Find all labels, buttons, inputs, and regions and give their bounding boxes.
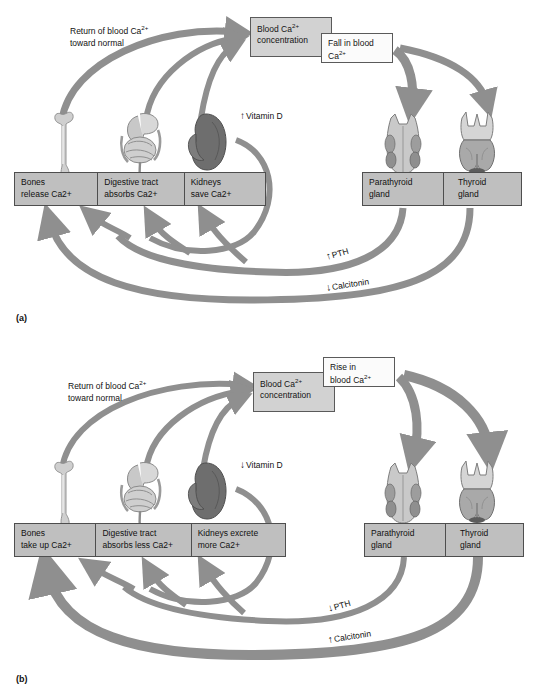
conc-line1-sup: 2+ xyxy=(295,377,302,384)
arrow-pth-to-kidneys xyxy=(206,569,244,613)
vitamin-d-text: Vitamin D xyxy=(246,460,283,470)
digestive-tract-illustration xyxy=(114,110,166,178)
trigger-line2: Ca xyxy=(328,51,339,61)
thyroid-line2: gland xyxy=(460,540,481,550)
digestive-line2: absorbs Ca xyxy=(104,189,147,199)
gland-parathyroid-cell: Parathyroid gland xyxy=(363,173,444,205)
kidney-illustration xyxy=(182,112,230,174)
return-line2: toward normal xyxy=(68,393,122,403)
bones-line1: Bones xyxy=(21,177,45,187)
glands-row: Parathyroid gland Thyroid gland xyxy=(364,523,524,557)
kidney-illustration xyxy=(182,461,230,523)
parathyroid-line2: gland xyxy=(369,189,390,199)
trigger-line1: Fall in blood xyxy=(328,38,374,48)
return-to-normal-label: Return of blood Ca2+ toward normal xyxy=(68,379,146,405)
bone-illustration xyxy=(52,457,78,529)
parathyroid-gland-illustration xyxy=(381,459,425,525)
arrow-fall-to-parathyroid xyxy=(395,50,413,105)
kidneys-line2-sup: 2+ xyxy=(230,540,240,550)
conc-line1-sup: 2+ xyxy=(292,22,299,29)
vitamin-d-text: Vitamin D xyxy=(246,111,283,121)
return-line1-sup: 2+ xyxy=(139,379,146,386)
arrow-return-kidney-to-concentration xyxy=(201,46,234,118)
return-line2: toward normal xyxy=(70,38,124,48)
kidneys-line2: more Ca xyxy=(198,540,231,550)
effector-bones-cell: Bones release Ca2+ xyxy=(15,173,98,205)
trigger-line1: Rise in xyxy=(330,362,356,372)
digestive-line2-sup: 2+ xyxy=(148,189,158,199)
trigger-line2: blood Ca xyxy=(330,375,364,385)
gland-thyroid-cell: Thyroid gland xyxy=(446,524,523,556)
bones-line2-sup: 2+ xyxy=(62,189,72,199)
effector-kidneys-cell: Kidneys save Ca2+ xyxy=(185,173,265,205)
effector-digestive-cell: Digestive tract absorbs Ca2+ xyxy=(98,173,184,205)
digestive-tract-illustration xyxy=(114,459,166,527)
thyroid-line1: Thyroid xyxy=(460,528,488,538)
gland-thyroid-cell: Thyroid gland xyxy=(444,173,521,205)
arrow-rise-to-parathyroid xyxy=(399,377,417,454)
panel-a: Blood Ca2+ concentration Fall in blood C… xyxy=(0,0,535,347)
vitamin-d-arrow-icon: ↑ xyxy=(240,110,245,121)
parathyroid-line1: Parathyroid xyxy=(371,528,414,538)
panel-b: Blood Ca2+ concentration Rise in blood C… xyxy=(0,347,535,694)
arrow-return-digestive-to-concentration xyxy=(146,391,242,469)
trigger-line2-sup: 2+ xyxy=(339,49,346,56)
fall-in-blood-calcium-box: Fall in blood Ca2+ xyxy=(321,33,393,63)
vitamin-d-label: ↑Vitamin D xyxy=(240,110,283,121)
return-line1-sup: 2+ xyxy=(141,24,148,31)
bones-line2: take up Ca xyxy=(21,540,62,550)
effector-bones-cell: Bones take up Ca2+ xyxy=(15,524,96,556)
conc-line1: Blood Ca xyxy=(260,379,295,389)
arrow-pth-to-bones xyxy=(92,567,134,589)
conc-line1: Blood Ca xyxy=(257,24,292,34)
blood-calcium-concentration-box: Blood Ca2+ concentration xyxy=(250,17,332,57)
kidneys-line1: Kidneys excrete xyxy=(198,528,258,538)
kidneys-line2-sup: 2+ xyxy=(222,189,232,199)
digestive-line2: absorbs less Ca xyxy=(102,540,163,550)
bones-line2-sup: 2+ xyxy=(62,540,72,550)
thyroid-gland-illustration xyxy=(454,110,500,176)
effector-kidneys-cell: Kidneys excrete more Ca2+ xyxy=(192,524,285,556)
vitamin-d-label: ↓Vitamin D xyxy=(240,459,283,470)
panel-a-caption: (a) xyxy=(16,313,27,323)
panel-b-caption: (b) xyxy=(16,674,28,684)
gland-parathyroid-cell: Parathyroid gland xyxy=(365,524,446,556)
thyroid-line2: gland xyxy=(458,189,479,199)
effector-organs-row: Bones release Ca2+ Digestive tract absor… xyxy=(14,172,266,206)
conc-line2: concentration xyxy=(260,390,311,400)
bone-illustration xyxy=(52,108,78,180)
arrow-return-digestive-to-concentration xyxy=(146,38,236,120)
bones-line2: release Ca xyxy=(21,189,62,199)
parathyroid-line2: gland xyxy=(371,540,392,550)
digestive-line2-sup: 2+ xyxy=(163,540,173,550)
effector-organs-row: Bones take up Ca2+ Digestive tract absor… xyxy=(14,523,286,557)
vitamin-d-arrow-icon: ↓ xyxy=(240,459,245,470)
thyroid-line1: Thyroid xyxy=(458,177,486,187)
digestive-line1: Digestive tract xyxy=(104,177,158,187)
bones-line1: Bones xyxy=(21,528,45,538)
trigger-line2-sup: 2+ xyxy=(364,373,371,380)
digestive-line1: Digestive tract xyxy=(102,528,156,538)
arrow-pth-to-bones xyxy=(92,216,130,238)
glands-row: Parathyroid gland Thyroid gland xyxy=(362,172,522,206)
parathyroid-line1: Parathyroid xyxy=(369,177,412,187)
effector-digestive-cell: Digestive tract absorbs less Ca2+ xyxy=(96,524,191,556)
return-line1: Return of blood Ca xyxy=(70,26,141,36)
thyroid-gland-illustration xyxy=(454,459,500,525)
return-to-normal-label: Return of blood Ca2+ toward normal xyxy=(70,24,148,50)
conc-line2: concentration xyxy=(257,35,308,45)
return-line1: Return of blood Ca xyxy=(68,381,139,391)
kidneys-line2: save Ca xyxy=(191,189,222,199)
kidneys-line1: Kidneys xyxy=(191,177,221,187)
parathyroid-gland-illustration xyxy=(381,110,425,176)
rise-in-blood-calcium-box: Rise in blood Ca2+ xyxy=(323,357,395,387)
arrow-return-kidney-to-concentration xyxy=(203,399,240,469)
